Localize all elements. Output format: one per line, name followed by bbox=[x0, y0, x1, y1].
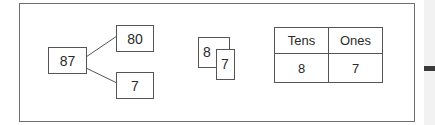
digit-card-front: 7 bbox=[216, 49, 235, 80]
digit-card-front-value: 7 bbox=[221, 56, 229, 72]
value-ones: 7 bbox=[329, 54, 383, 83]
number-bond-part-tens: 80 bbox=[116, 25, 154, 52]
value-tens: 8 bbox=[275, 54, 329, 83]
header-ones: Ones bbox=[329, 28, 383, 54]
whole-value: 87 bbox=[60, 53, 76, 69]
part-ones-value: 7 bbox=[131, 78, 139, 94]
side-strip bbox=[424, 0, 435, 125]
place-value-header-row: Tens Ones bbox=[275, 28, 383, 54]
digit-card-back-value: 8 bbox=[203, 44, 211, 60]
part-tens-value: 80 bbox=[127, 31, 143, 47]
number-bond-whole: 87 bbox=[48, 47, 87, 74]
header-tens: Tens bbox=[275, 28, 329, 54]
place-value-value-row: 8 7 bbox=[275, 54, 383, 83]
number-bond-part-ones: 7 bbox=[116, 72, 154, 99]
place-value-chart: Tens Ones 8 7 bbox=[274, 27, 383, 83]
side-bar-handle bbox=[424, 66, 435, 71]
